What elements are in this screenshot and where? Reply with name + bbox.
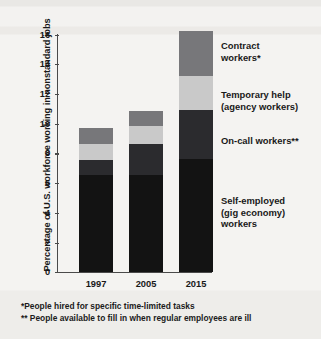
bar-segment-temporary [79,144,113,160]
y-tick-12: 12 [55,94,59,95]
footnote-contract: *People hired for specific time-limited … [21,301,311,313]
y-tick-16: 16 [55,35,59,36]
y-tick-label-14: 14 [40,59,50,69]
y-tick-2: 2 [55,243,59,244]
plot-area: 16 14 12 10 8 6 4 2 0 1997 2005 2 [57,34,212,273]
y-tick-label-2: 2 [45,238,50,248]
x-tick-label-2015: 2015 [166,279,226,289]
legend-label-temporary: Temporary help (agency workers) [221,89,298,112]
bar-1997[interactable] [79,128,113,272]
bar-segment-temporary [129,126,163,144]
bar-segment-contract [179,31,213,76]
bar-segment-contract [129,111,163,126]
y-tick-8: 8 [55,153,59,154]
y-tick-label-12: 12 [40,89,50,99]
footnote-oncall: ** People available to fill in when regu… [21,313,311,325]
legend-label-self-employed: Self-employed (gig economy) workers [221,195,285,230]
y-tick-label-4: 4 [45,208,50,218]
y-tick-label-16: 16 [40,30,50,40]
bar-segment-self-employed [129,175,163,272]
y-tick-0: 0 [55,272,59,273]
y-tick-10: 10 [55,124,59,125]
y-tick-4: 4 [55,213,59,214]
footnotes: *People hired for specific time-limited … [21,301,311,324]
y-tick-label-10: 10 [40,119,50,129]
legend-label-contract: Contract workers* [221,40,261,63]
y-tick-14: 14 [55,64,59,65]
bar-segment-on-call [129,144,163,175]
bar-2005[interactable] [129,111,163,271]
stacked-bar-chart-figure: Percentage of U.S. workforce working in … [0,0,321,339]
y-tick-6: 6 [55,183,59,184]
bar-segment-self-employed [79,175,113,272]
bar-segment-self-employed [179,159,213,272]
bar-segment-contract [79,128,113,144]
y-tick-label-8: 8 [45,148,50,158]
bar-2015[interactable] [179,31,213,272]
bar-segment-on-call [79,160,113,175]
legend-label-oncall: On-call workers** [221,135,299,147]
bar-segment-on-call [179,110,213,159]
y-tick-label-0: 0 [45,267,50,277]
x-axis-line [57,272,212,273]
bar-segment-temporary [179,76,213,110]
y-tick-label-6: 6 [45,178,50,188]
